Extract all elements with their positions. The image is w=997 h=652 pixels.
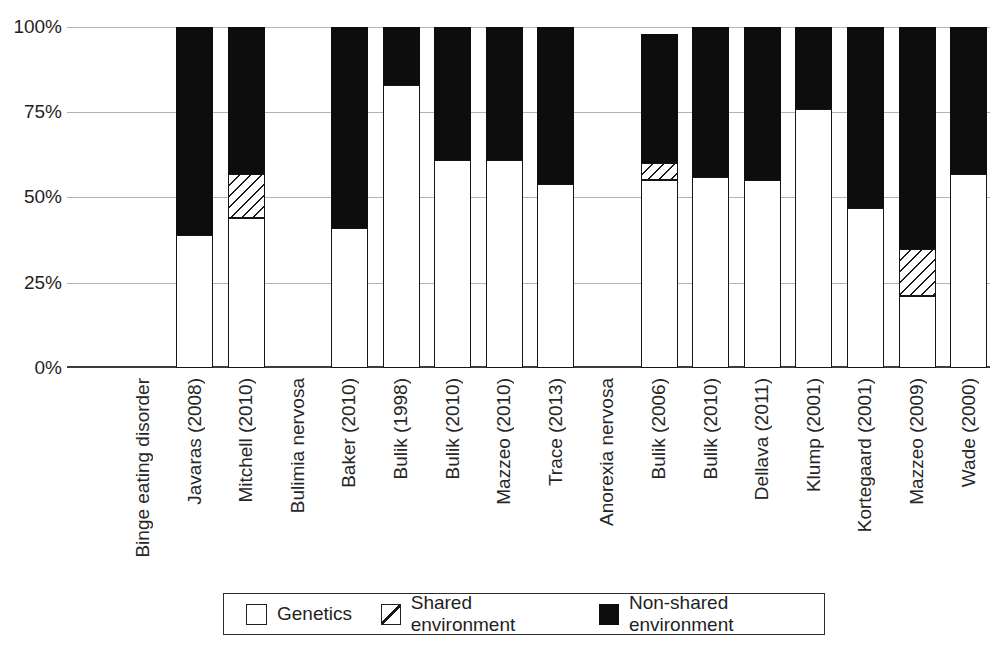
bar-segment-black: [744, 27, 781, 180]
legend-label: Non-shared environment: [629, 592, 824, 636]
bar-segment-white: [899, 296, 936, 368]
bar-segment-white: [692, 177, 729, 368]
x-axis-label: Mitchell (2010): [235, 378, 257, 503]
bar-segment-black: [950, 27, 987, 174]
x-axis-label: Kortegaard (2001): [854, 378, 876, 532]
bar-segment-hatched: [641, 163, 678, 180]
bar-segment-black: [486, 27, 523, 160]
bar-segment-black: [795, 27, 832, 109]
bar-segment-black: [692, 27, 729, 177]
bar-segment-black: [176, 27, 213, 235]
x-axis-label: Dellava (2011): [751, 378, 773, 500]
bar-segment-white: [641, 180, 678, 368]
x-axis-label: Mazzeo (2010): [493, 378, 515, 505]
x-axis-label: Javaras (2008): [184, 378, 206, 505]
bar-segment-white: [950, 174, 987, 368]
x-axis-label: Bulik (2010): [700, 378, 722, 479]
x-axis-group-header: Bulimia nervosa: [287, 378, 309, 513]
x-axis-label: Bulik (1998): [390, 378, 412, 479]
y-axis-label: 25%: [0, 272, 62, 294]
y-axis-label: 0%: [0, 357, 62, 379]
bar-segment-black: [899, 27, 936, 249]
bar-segment-white: [176, 235, 213, 368]
bar-segment-white: [537, 184, 574, 368]
figure-canvas: 100% 75% 50% 25% 0% Genetics Shared envi…: [0, 0, 997, 652]
legend-item-non-shared-environment: Non-shared environment: [599, 592, 824, 636]
bar-segment-black: [331, 27, 368, 228]
bar-segment-white: [383, 85, 420, 368]
x-axis-label: Wade (2000): [958, 378, 980, 487]
legend-label: Shared environment: [411, 592, 571, 636]
legend-item-genetics: Genetics: [246, 603, 352, 625]
y-axis-label: 100%: [0, 16, 62, 38]
non-shared-environment-swatch-icon: [599, 604, 619, 625]
legend-label: Genetics: [277, 603, 352, 625]
plot-area: [67, 27, 990, 368]
bar-segment-black: [383, 27, 420, 85]
legend-item-shared-environment: Shared environment: [381, 592, 570, 636]
x-axis-label: Mazzeo (2009): [906, 378, 928, 505]
shared-environment-swatch-icon: [381, 604, 401, 625]
bar-segment-white: [331, 228, 368, 368]
x-axis-group-header: Binge eating disorder: [132, 378, 154, 558]
bar-segment-black: [641, 34, 678, 164]
bar-segment-black: [434, 27, 471, 160]
bar-segment-white: [795, 109, 832, 368]
bar-segment-black: [228, 27, 265, 174]
bar-segment-white: [228, 218, 265, 368]
y-axis-label: 50%: [0, 186, 62, 208]
bar-segment-white: [847, 208, 884, 368]
x-axis-label: Bulik (2010): [442, 378, 464, 479]
bar-segment-white: [744, 180, 781, 368]
bar-segment-white: [486, 160, 523, 368]
bar-segment-black: [847, 27, 884, 208]
genetics-swatch-icon: [246, 604, 267, 625]
bar-segment-black: [537, 27, 574, 184]
bar-segment-hatched: [228, 174, 265, 218]
x-axis-group-header: Anorexia nervosa: [596, 378, 618, 526]
x-axis-label: Bulik (2006): [648, 378, 670, 479]
bar-segment-white: [434, 160, 471, 368]
x-axis-label: Klump (2001): [803, 378, 825, 492]
legend: Genetics Shared environment Non-shared e…: [223, 593, 825, 635]
x-axis-label: Trace (2013): [545, 378, 567, 486]
y-axis-label: 75%: [0, 101, 62, 123]
x-axis-label: Baker (2010): [338, 378, 360, 488]
bar-segment-hatched: [899, 249, 936, 297]
